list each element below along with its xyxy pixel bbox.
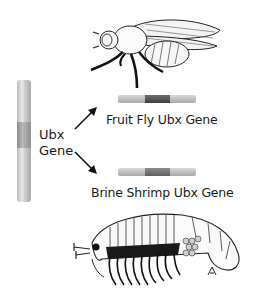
- ubx-gene-label: Ubx Gene: [39, 127, 73, 159]
- fruit-fly-gene-label: Fruit Fly Ubx Gene: [106, 112, 218, 127]
- ubx-label-line1: Ubx: [39, 127, 73, 143]
- arrow-to-brine-shrimp-icon: [72, 149, 102, 179]
- ubx-segment: [145, 95, 171, 103]
- fruit-fly-illustration: [85, 8, 225, 90]
- chromosome: [17, 80, 31, 202]
- ubx-segment: [145, 168, 171, 176]
- brine-shrimp-illustration: [62, 203, 252, 291]
- fruit-fly-gene-bar: [118, 95, 196, 103]
- brine-shrimp-gene-bar: [118, 168, 196, 176]
- ubx-label-line2: Gene: [39, 143, 73, 159]
- brine-shrimp-gene-label: Brine Shrimp Ubx Gene: [91, 185, 234, 200]
- arrow-to-fruit-fly-icon: [72, 103, 102, 133]
- ubx-gene-band: [17, 122, 31, 148]
